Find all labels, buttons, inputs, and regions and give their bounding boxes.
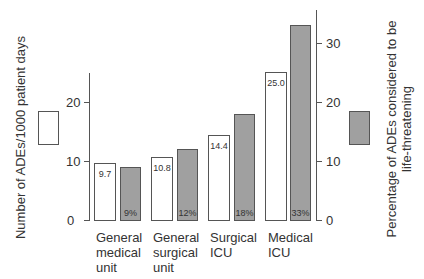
bar-gmu-pct-value: 9% <box>121 208 140 218</box>
bar-gmu-pct: 9% <box>120 167 141 221</box>
left-tick-0 <box>84 220 89 221</box>
left-tick-label-0: 0 <box>67 214 74 227</box>
right-tick-30 <box>317 43 322 44</box>
bar-micu-pct-value: 33% <box>291 208 310 218</box>
category-label-sicu: Surgical ICU <box>210 230 257 260</box>
right-tick-0 <box>317 220 322 221</box>
right-tick-label-30: 30 <box>326 37 340 50</box>
left-axis-label: Number of ADEs/1000 patient days <box>13 23 28 253</box>
bar-sicu-ades: 14.4 <box>208 135 230 221</box>
bar-micu-pct: 33% <box>290 25 311 221</box>
category-label-micu: Medical ICU <box>268 230 313 260</box>
bar-sicu-pct: 18% <box>234 114 255 221</box>
right-axis-label-line1: Percentage of ADEs considered to be <box>384 4 399 254</box>
left-tick-20 <box>84 102 89 103</box>
legend-swatch-life-threatening-pct <box>349 111 370 145</box>
right-tick-label-0: 0 <box>326 214 333 227</box>
bar-sicu-pct-value: 18% <box>235 208 254 218</box>
left-tick-label-10: 10 <box>66 155 80 168</box>
left-tick-label-20: 20 <box>66 96 80 109</box>
right-tick-20 <box>317 102 322 103</box>
right-axis-label-line2: life-threatening <box>399 4 414 254</box>
right-tick-10 <box>317 161 322 162</box>
left-tick-10 <box>84 161 89 162</box>
category-label-gmu: General medical unit <box>96 230 142 275</box>
bar-gmu-ades: 9.7 <box>94 163 116 221</box>
bar-gsu-pct-value: 12% <box>178 208 197 218</box>
bar-sicu-ades-value: 14.4 <box>209 141 229 151</box>
left-axis <box>89 73 90 221</box>
legend-swatch-ades-per-1000 <box>38 111 59 145</box>
right-tick-label-20: 20 <box>326 96 340 109</box>
right-axis-label: Percentage of ADEs considered to be life… <box>384 4 416 254</box>
right-axis <box>316 10 317 221</box>
bar-gsu-pct: 12% <box>177 149 198 221</box>
bar-gsu-ades: 10.8 <box>151 157 173 221</box>
bar-gsu-ades-value: 10.8 <box>152 163 172 173</box>
bar-gmu-ades-value: 9.7 <box>95 169 115 179</box>
category-label-gsu: General surgical unit <box>153 230 199 275</box>
bar-micu-ades-value: 25.0 <box>266 78 286 88</box>
bar-micu-ades: 25.0 <box>265 72 287 221</box>
right-tick-label-10: 10 <box>326 155 340 168</box>
